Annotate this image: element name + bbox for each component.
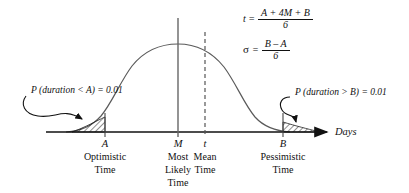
marker-desc-t-line1: Mean	[182, 152, 228, 163]
formula-expected-time-denominator: 6	[258, 20, 313, 31]
formula-expected-time: t =A + 4M + B6	[243, 8, 313, 30]
marker-desc-a-line1: Optimistic	[75, 152, 135, 163]
pert-beta-distribution-figure: t =A + 4M + B6 σ=B – A6 P (duration < A)…	[0, 0, 409, 193]
marker-desc-a-line2: Time	[75, 165, 135, 176]
formula-standard-deviation-fraction: B – A6	[262, 39, 290, 61]
left-annotation-arrow	[23, 96, 82, 119]
formula-standard-deviation-numerator: B – A	[262, 39, 290, 51]
marker-symbol-a: A	[95, 138, 115, 149]
marker-desc-b-line1: Pessimistic	[250, 152, 316, 163]
x-axis-label: Days	[335, 126, 357, 137]
marker-symbol-m: M	[168, 138, 188, 149]
formula-expected-time-lhs: t =	[243, 14, 258, 25]
marker-desc-t-line2: Time	[182, 165, 228, 176]
marker-symbol-t: t	[196, 138, 214, 149]
formula-standard-deviation-denominator: 6	[262, 51, 290, 62]
sigma-symbol: σ	[243, 44, 252, 56]
formula-standard-deviation: σ=B – A6	[243, 39, 290, 61]
formula-expected-time-numerator: A + 4M + B	[258, 8, 313, 20]
marker-symbol-b: B	[273, 138, 293, 149]
left-tail-probability-label: P (duration < A) = 0.01	[31, 86, 123, 96]
marker-desc-m-line3: Time	[153, 178, 203, 189]
formula-expected-time-fraction: A + 4M + B6	[258, 8, 313, 30]
right-tail-probability-label: P (duration > B) = 0.01	[295, 88, 387, 98]
right-tail-shaded-region	[283, 122, 316, 132]
marker-desc-b-line2: Time	[250, 165, 316, 176]
formula-standard-deviation-equals: =	[252, 45, 262, 56]
left-tail-shaded-region	[72, 117, 105, 132]
